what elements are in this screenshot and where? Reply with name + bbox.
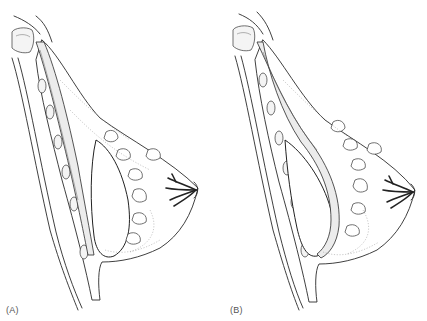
panel-b-submuscular: (B) xyxy=(213,0,427,321)
panel-b-illustration xyxy=(213,0,427,321)
clavicle-icon xyxy=(12,28,34,53)
panel-a-label: (A) xyxy=(6,305,19,315)
panel-a-subglandular: (A) xyxy=(0,0,213,321)
panel-b-label: (B) xyxy=(230,305,243,315)
breast-outline xyxy=(255,40,415,302)
rib-icon xyxy=(259,73,267,87)
panel-a-illustration xyxy=(0,0,213,321)
rib-icon xyxy=(38,79,46,93)
clavicle-icon xyxy=(233,26,255,51)
